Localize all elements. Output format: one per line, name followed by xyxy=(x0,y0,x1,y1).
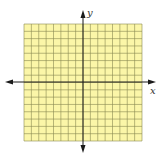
x-axis-label: x xyxy=(150,86,156,96)
x-axis-left-arrow-icon xyxy=(5,80,13,85)
y-axis-up-arrow-icon xyxy=(81,10,86,18)
y-axis-label: y xyxy=(87,8,93,18)
y-axis-down-arrow-icon xyxy=(81,145,86,153)
x-axis-right-arrow-icon xyxy=(148,80,156,85)
coordinate-plane xyxy=(0,0,165,159)
